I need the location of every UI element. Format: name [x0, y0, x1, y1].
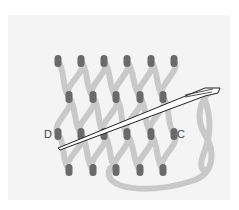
canvas-hole: [113, 164, 120, 176]
canvas-hole: [160, 91, 167, 103]
canvas-hole: [55, 55, 62, 67]
canvas-hole: [137, 164, 144, 176]
diagram-canvas: [0, 0, 239, 210]
canvas-hole: [171, 55, 178, 67]
canvas-hole: [148, 128, 155, 140]
stitch-diagram: D C: [0, 0, 239, 210]
canvas-hole: [66, 91, 73, 103]
canvas-hole: [124, 55, 131, 67]
label-c: C: [177, 129, 185, 140]
canvas-hole: [113, 91, 120, 103]
label-d: D: [44, 129, 52, 140]
canvas-hole: [124, 128, 131, 140]
canvas-hole: [55, 128, 62, 140]
canvas-hole: [148, 55, 155, 67]
canvas-hole: [160, 164, 167, 176]
canvas-hole: [137, 91, 144, 103]
canvas-hole: [101, 55, 108, 67]
canvas-hole: [90, 91, 97, 103]
canvas-hole: [66, 164, 73, 176]
canvas-hole: [90, 164, 97, 176]
canvas-hole: [78, 55, 85, 67]
